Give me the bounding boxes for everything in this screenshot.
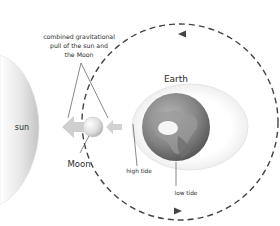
combined-pull-annotation: combined gravitational pull of the sun a… xyxy=(43,33,115,118)
sun-label: sun xyxy=(15,123,29,132)
low-tide-label: low tide xyxy=(175,190,198,196)
moon xyxy=(83,117,103,137)
combined-pull-label-line3: the Moon xyxy=(65,51,94,58)
combined-pull-label-line2: pull of the sun and xyxy=(50,42,108,50)
earth-label: Earth xyxy=(164,74,188,84)
orbit-arrow-bottom-icon xyxy=(174,208,182,215)
moon-annotation: Moon xyxy=(67,136,90,169)
orbit-arrow-top-icon xyxy=(178,31,186,38)
sun: sun xyxy=(0,55,39,205)
tides-diagram: sun Earth combined gravitational pull of… xyxy=(0,0,280,226)
pull-arrow-small-icon xyxy=(106,120,122,134)
combined-pull-label-line1: combined gravitational xyxy=(43,33,115,41)
moon-label: Moon xyxy=(67,159,90,169)
pull-arrow-large-icon xyxy=(62,116,84,138)
high-tide-label: high tide xyxy=(126,168,152,175)
